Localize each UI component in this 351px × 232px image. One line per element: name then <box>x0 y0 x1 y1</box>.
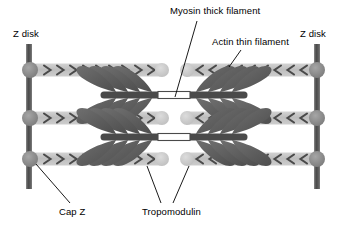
tropomodulin-node <box>155 111 169 125</box>
actin-row-2 <box>29 112 318 125</box>
myosin-leader-line <box>175 21 197 97</box>
cap-z-node <box>22 110 38 126</box>
label-cap-z: Cap Z <box>59 207 85 217</box>
sarcomere-illustration <box>0 0 351 232</box>
label-myosin-thick-filament: Myosin thick filament <box>170 6 260 16</box>
cap-z-node <box>309 151 325 167</box>
sarcomere-diagram: Myosin thick filament Actin thin filamen… <box>0 0 351 232</box>
cap-z-node <box>22 151 38 167</box>
tropomodulin-leader-line-1 <box>147 166 161 203</box>
actin-row-1 <box>29 64 318 77</box>
tropomodulin-node <box>155 63 169 77</box>
cap-z-node <box>22 62 38 78</box>
cap-z-leader-line <box>36 164 70 203</box>
tropomodulin-nodes <box>155 63 194 166</box>
label-tropomodulin: Tropomodulin <box>142 207 201 217</box>
tropomodulin-leader-line-2 <box>173 166 189 203</box>
label-z-disk-left: Z disk <box>13 29 39 39</box>
tropomodulin-node <box>155 152 169 166</box>
label-actin-thin-filament: Actin thin filament <box>212 37 289 47</box>
label-z-disk-right: Z disk <box>300 29 326 39</box>
tropomodulin-node <box>180 63 194 77</box>
myosin-bare-zone <box>158 134 190 141</box>
tropomodulin-node <box>180 152 194 166</box>
tropomodulin-node <box>180 111 194 125</box>
actin-row-3 <box>29 153 318 166</box>
cap-z-node <box>309 62 325 78</box>
cap-z-node <box>309 110 325 126</box>
myosin-bare-zone <box>158 92 190 99</box>
myosin-filament-2 <box>76 108 271 166</box>
